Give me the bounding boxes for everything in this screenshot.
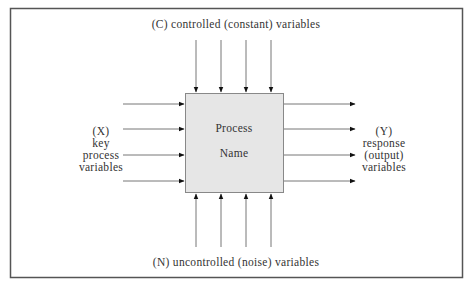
- process-name-line1: Process: [215, 122, 252, 134]
- process-box: [186, 94, 284, 193]
- right-label-line4: variables: [362, 161, 406, 173]
- left-label-line4: variables: [79, 161, 123, 173]
- controlled-variables-label: (C) controlled (constant) variables: [152, 18, 321, 31]
- process-diagram: Process Name (C) controlled (constant) v…: [0, 0, 472, 285]
- noise-variables-label: (N) uncontrolled (noise) variables: [153, 256, 320, 269]
- process-name-line2: Name: [220, 147, 249, 159]
